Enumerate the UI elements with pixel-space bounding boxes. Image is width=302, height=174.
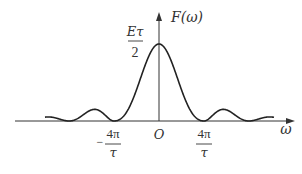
tick-pos-denominator: τ <box>200 145 208 160</box>
y-axis-arrow-icon <box>156 12 162 21</box>
x-axis-label: ω <box>280 121 292 137</box>
origin-label: O <box>154 127 165 142</box>
peak-label-denominator: 2 <box>132 45 139 60</box>
spectrum-chart: F(ω) Eτ 2 O ω − 4π τ 4π τ <box>0 0 302 174</box>
tick-pos-numerator: 4π <box>197 126 211 141</box>
tick-neg-sign: − <box>97 135 104 149</box>
tick-neg-denominator: τ <box>109 145 117 160</box>
y-axis-label: F(ω) <box>170 9 203 25</box>
peak-label-numerator: Eτ <box>126 24 144 39</box>
tick-neg-numerator: 4π <box>106 126 120 141</box>
